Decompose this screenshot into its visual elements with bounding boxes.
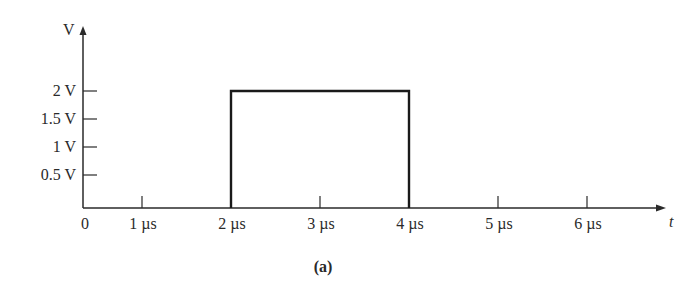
x-ticks: [142, 196, 587, 208]
y-tick-label: 2 V: [53, 82, 77, 99]
y-tick-label: 0.5 V: [41, 166, 77, 183]
y-axis-label: V: [63, 21, 75, 38]
x-axis-label: t: [669, 213, 674, 230]
y-tick-label: 1 V: [53, 138, 77, 155]
y-ticks: [83, 91, 97, 175]
x-tick-label: 2 µs: [218, 215, 245, 233]
x-tick-label: 4 µs: [396, 215, 423, 233]
figure-caption: (a): [314, 258, 333, 276]
pulse-waveform: [231, 91, 409, 208]
y-tick-label: 1.5 V: [41, 110, 77, 127]
x-tick-label: 1 µs: [129, 215, 156, 233]
x-axis-arrow-icon: [656, 205, 666, 212]
y-axis-arrow-icon: [80, 26, 87, 35]
origin-label: 0: [81, 215, 89, 232]
x-tick-label: 3 µs: [307, 215, 334, 233]
x-tick-label: 5 µs: [485, 215, 512, 233]
x-tick-label: 6 µs: [574, 215, 601, 233]
pulse-chart: V t 2 V 1.5 V 1 V 0.5 V 0 1 µs 2 µs 3 µs…: [0, 0, 682, 283]
